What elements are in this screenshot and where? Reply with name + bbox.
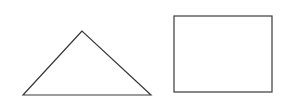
rectangle-shape: [174, 16, 272, 92]
triangle-shape: [23, 31, 151, 95]
diagram-canvas: [0, 0, 297, 109]
